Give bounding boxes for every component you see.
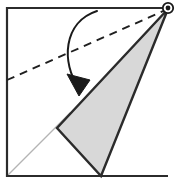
figure-root bbox=[0, 0, 179, 183]
paper-folding-figure bbox=[0, 0, 179, 183]
corner-point-marker-inner-icon bbox=[166, 6, 171, 11]
